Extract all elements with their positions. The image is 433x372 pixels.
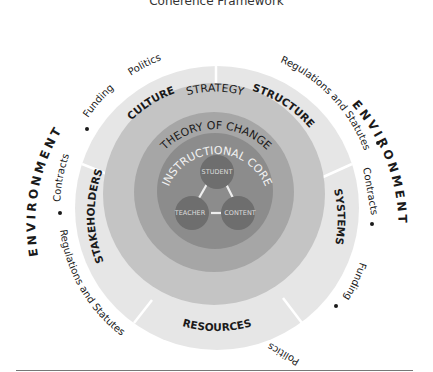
content-label: CONTENT <box>224 209 255 217</box>
svg-text:Contracts: Contracts <box>51 152 71 202</box>
svg-text:Politics: Politics <box>126 52 162 78</box>
env-left-contracts: Contracts <box>51 152 71 202</box>
env-left-funding: Funding <box>81 82 116 119</box>
env-right-contracts: Contracts <box>361 166 380 215</box>
teacher-label: TEACHER <box>174 209 206 217</box>
env-left-politics: Politics <box>126 52 162 78</box>
bottom-divider <box>16 370 413 371</box>
student-label: STUDENT <box>202 168 233 176</box>
svg-text:Funding: Funding <box>81 82 116 119</box>
env-right-politics: Politics <box>265 341 301 368</box>
coherence-diagram: STUDENT TEACHER CONTENT STRATEGY THEORY … <box>0 0 433 372</box>
